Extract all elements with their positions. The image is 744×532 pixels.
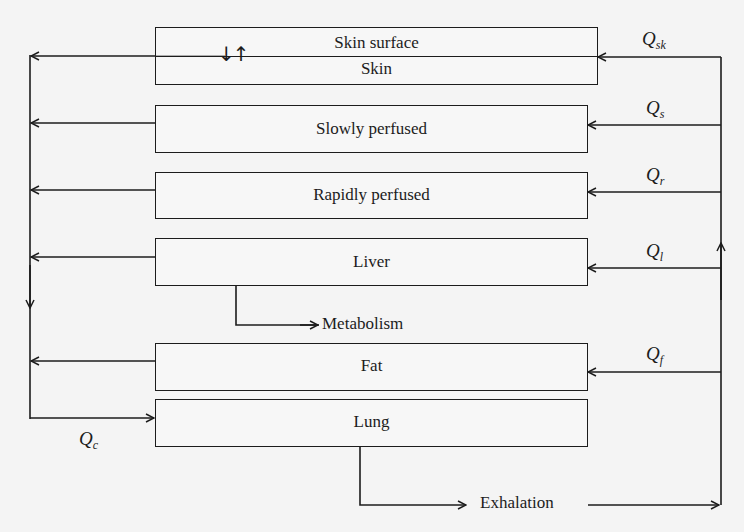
- flow-label-slowly: Qs: [646, 97, 664, 122]
- fat-compartment: Fat: [155, 343, 588, 391]
- slowly-perfused-compartment: Slowly perfused: [155, 105, 588, 153]
- skin-compartment: Skin surface Skin ↓↑: [155, 27, 598, 85]
- metabolism-line: [236, 285, 319, 325]
- flow-label-cardiac: Qc: [79, 428, 98, 453]
- metabolism-label: Metabolism: [318, 314, 407, 334]
- liver-compartment: Liver: [155, 238, 588, 286]
- liver-label: Liver: [156, 252, 587, 272]
- skin-surface-label: Skin surface: [156, 33, 597, 53]
- rapidly-perfused-label: Rapidly perfused: [156, 185, 587, 205]
- flow-label-rapidly: Qr: [646, 164, 664, 189]
- rapidly-perfused-compartment: Rapidly perfused: [155, 172, 588, 219]
- slowly-perfused-label: Slowly perfused: [156, 119, 587, 139]
- flow-label-fat: Qf: [646, 343, 663, 368]
- lung-label: Lung: [156, 412, 587, 432]
- skin-label: Skin: [156, 59, 597, 79]
- fat-label: Fat: [156, 356, 587, 376]
- flow-label-skin: Qsk: [642, 28, 666, 53]
- lung-compartment: Lung: [155, 399, 588, 447]
- exhalation-line: [360, 447, 466, 505]
- exhalation-label: Exhalation: [476, 493, 558, 513]
- flow-label-liver: Ql: [646, 240, 663, 265]
